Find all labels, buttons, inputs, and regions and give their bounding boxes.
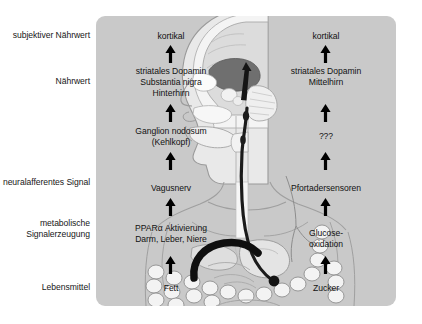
row-label-food: Lebensmittel bbox=[0, 282, 90, 293]
arrow-right-4 bbox=[319, 198, 332, 216]
arrow-left-2 bbox=[164, 104, 177, 122]
arrow-right-3 bbox=[319, 152, 332, 170]
node-unknown: ??? bbox=[256, 131, 396, 142]
row-label-neural-afferent-signal: neuralafferentes Signal bbox=[0, 177, 90, 188]
figure-root: subjektiver Nährwert Nährwert neuralaffe… bbox=[0, 0, 422, 324]
arrow-left-4 bbox=[164, 198, 177, 216]
node-kortikal-left: kortikal bbox=[96, 31, 246, 42]
node-kortikal-right: kortikal bbox=[256, 31, 396, 42]
row-label-column: subjektiver Nährwert Nährwert neuralaffe… bbox=[0, 0, 90, 324]
node-glucose-oxidation: Glucose- oxidation bbox=[256, 228, 396, 250]
node-ganglion-nodosum: Ganglion nodosum (Kehlkopf) bbox=[96, 126, 246, 148]
node-zucker: Zucker bbox=[256, 283, 396, 294]
anatomy-illustration bbox=[96, 16, 396, 306]
cerebellum bbox=[246, 86, 277, 121]
arrow-left-3 bbox=[164, 152, 177, 170]
arrow-left-1 bbox=[164, 45, 177, 63]
arrow-right-1 bbox=[319, 45, 332, 63]
arrow-right-5 bbox=[319, 256, 332, 274]
row-label-metabolic-signal-generation: metabolische Signalerzeugung bbox=[0, 218, 90, 240]
node-striatales-dopamin-left: striatales Dopamin Substantia nigra Hint… bbox=[96, 66, 246, 100]
node-pfortadersensoren: Pfortadersensoren bbox=[256, 183, 396, 194]
arrow-left-5 bbox=[164, 256, 177, 274]
row-label-subjective-nutritional-value: subjektiver Nährwert bbox=[0, 30, 90, 41]
node-vagusnerv: Vagusnerv bbox=[96, 183, 246, 194]
node-striatales-dopamin-right: striatales Dopamin Mittelhirn bbox=[256, 66, 396, 88]
node-fett: Fett bbox=[96, 283, 246, 294]
node-ppar-alpha: PPARα Aktivierung Darm, Leber, Niere bbox=[96, 223, 246, 245]
arrow-right-2 bbox=[319, 104, 332, 122]
row-label-nutritional-value: Nährwert bbox=[0, 76, 90, 87]
